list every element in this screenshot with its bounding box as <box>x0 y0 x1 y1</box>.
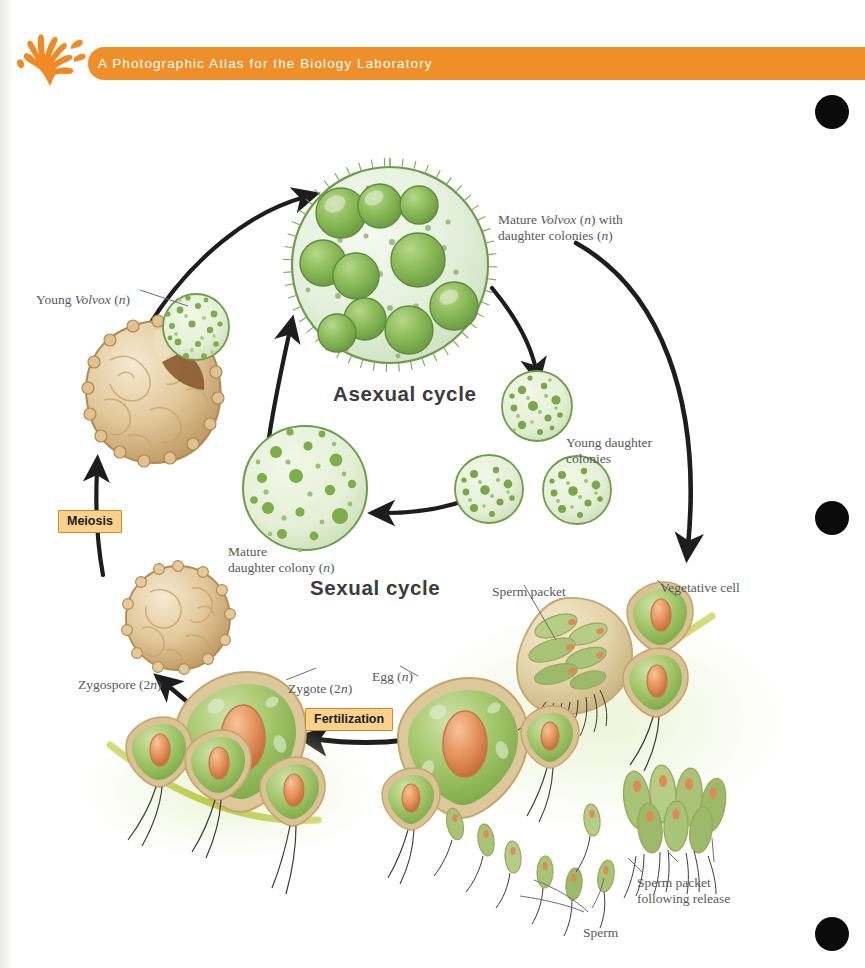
young-daughter-colony <box>455 455 523 523</box>
vegetative-cell <box>185 730 251 858</box>
zygospore <box>122 561 236 675</box>
registration-dot <box>815 95 849 129</box>
young-volvox-colony <box>163 294 229 360</box>
label-sperm: Sperm <box>583 909 618 941</box>
label-mature-daughter-colony-text: Maturedaughter colony (n) <box>228 544 334 575</box>
registration-dot <box>815 501 849 535</box>
mature-volvox-colony <box>283 158 497 372</box>
meiosis-arrows <box>96 470 172 662</box>
egg-cell <box>398 666 528 818</box>
label-zygote-text: Zygote (2n) <box>288 681 352 696</box>
germinating-zygospore <box>82 315 224 467</box>
registration-dot <box>815 917 849 951</box>
label-zygospore-text: Zygospore (2n) <box>78 677 162 692</box>
sperm-packet <box>517 585 632 738</box>
asexual-cycle-heading: Asexual cycle <box>333 382 476 406</box>
sexual-right-colony-surface <box>410 610 790 830</box>
leader-line-young-volvox <box>140 290 188 306</box>
label-sperm-packet-text: Sperm packet <box>492 584 566 599</box>
vegetative-cell <box>627 580 693 706</box>
vegetative-cell <box>623 648 688 771</box>
vegetative-cells-left <box>126 717 325 894</box>
label-mature-volvox-text: Mature Volvox (n) withdaughter colonies … <box>498 212 623 243</box>
label-mature-daughter-colony: Maturedaughter colony (n) <box>228 528 334 576</box>
young-daughter-colony <box>502 371 572 441</box>
vegetative-cell <box>126 717 192 846</box>
label-mature-volvox: Mature Volvox (n) withdaughter colonies … <box>498 196 623 244</box>
colony-surface-band <box>428 616 712 800</box>
label-vegetative-cell-text: Vegetative cell <box>660 580 740 595</box>
zygote-to-zygospore-arrow <box>166 684 209 720</box>
label-young-volvox-text: Young Volvox (n) <box>36 292 130 307</box>
asexual-cycle-arrows <box>146 197 536 513</box>
leader-line-sperm-2 <box>520 896 584 912</box>
label-young-daughter-colonies-text: Young daughtercolonies <box>566 435 652 466</box>
volvox-life-cycle-illustration <box>0 0 865 968</box>
sexual-cycle-heading: Sexual cycle <box>310 576 440 600</box>
label-young-daughter-colonies: Young daughtercolonies <box>566 419 652 467</box>
label-zygospore: Zygospore (2n) <box>78 661 162 693</box>
label-zygote: Zygote (2n) <box>288 665 352 697</box>
vegetative-cells-right-lower <box>382 706 579 884</box>
fertilization-label: Fertilization <box>305 708 393 731</box>
label-egg: Egg (n) <box>372 653 413 685</box>
vegetative-cell <box>521 706 579 822</box>
sexual-left-colony-surface <box>80 720 380 860</box>
meiosis-label: Meiosis <box>58 510 122 533</box>
page-gutter-shadow <box>0 0 14 968</box>
leader-line-sperm-1 <box>534 880 588 912</box>
label-sperm-packet-following-release-text: Sperm packetfollowing release <box>637 875 730 906</box>
label-young-volvox: Young Volvox (n) <box>36 276 130 308</box>
vegetative-cell <box>382 768 440 884</box>
header-title: A Photographic Atlas for the Biology Lab… <box>98 56 618 71</box>
figure-page: A Photographic Atlas for the Biology Lab… <box>0 0 865 968</box>
label-sperm-packet-following-release: Sperm packetfollowing release <box>637 859 730 907</box>
coral-seaweed-logo <box>16 28 90 86</box>
fertilization-arrow <box>314 739 406 743</box>
leader-line-sperm-3 <box>592 878 604 908</box>
label-sperm-packet: Sperm packet <box>492 568 566 600</box>
colony-surface-band <box>110 745 318 820</box>
label-sperm-text: Sperm <box>583 925 618 940</box>
label-egg-text: Egg (n) <box>372 669 413 684</box>
vegetative-cell <box>260 757 325 894</box>
mature-to-sexual-arrow <box>576 243 691 546</box>
label-vegetative-cell: Vegetative cell <box>660 564 740 596</box>
vegetative-cells-right-upper <box>623 580 693 771</box>
